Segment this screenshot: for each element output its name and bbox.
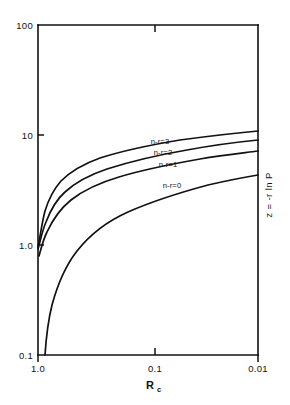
x-tick-label-0p1: 0.1	[148, 363, 162, 374]
chart-plot: 100 10 1.0 0.1 1.0 0.1 0.01 R c z = -r l…	[0, 0, 290, 405]
y-tick-label-0p1: 0.1	[19, 350, 33, 361]
x-tick-label-1p0: 1.0	[31, 363, 45, 374]
x-axis-title-main: R	[146, 379, 154, 391]
y-tick-label-10: 10	[22, 130, 33, 141]
data-curves	[38, 131, 258, 355]
curve-label-n-r-3: n-r=3	[151, 137, 169, 146]
x-tick-label-0p01: 0.01	[248, 363, 268, 374]
x-axis-ticks	[38, 25, 258, 362]
curve-n-r-3	[38, 131, 258, 247]
figure-container: 100 10 1.0 0.1 1.0 0.1 0.01 R c z = -r l…	[0, 0, 290, 405]
curve-n-r-0	[45, 175, 258, 355]
y-tick-label-100: 100	[16, 20, 33, 31]
y-tick-label-1: 1.0	[19, 240, 33, 251]
y2-axis-title: z = -r ln P	[263, 172, 274, 217]
curve-label-n-r-1: n-r=1	[159, 160, 177, 169]
curve-labels: n-r=3 n-r=2 n-r=1 n-r=0	[151, 137, 181, 190]
axes-frame	[38, 25, 258, 355]
x-axis-title: R c	[146, 379, 161, 394]
curve-n-r-2	[38, 140, 258, 249]
x-axis-title-sub: c	[157, 385, 161, 394]
curve-label-n-r-2: n-r=2	[154, 148, 172, 157]
curve-label-n-r-0: n-r=0	[163, 181, 181, 190]
